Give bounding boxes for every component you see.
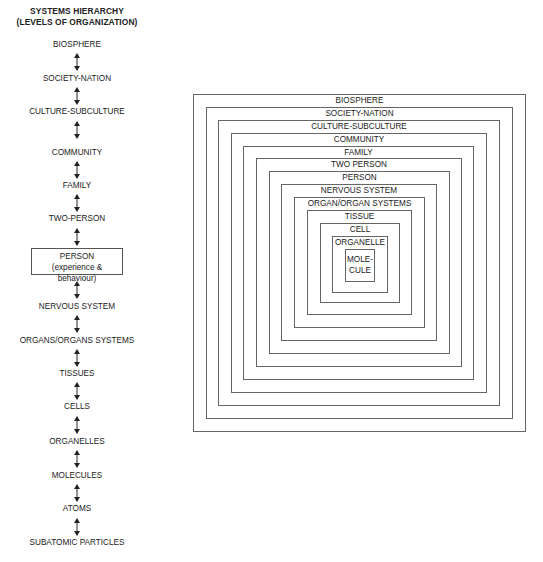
nest-label-molecule-2: CULE <box>346 265 374 276</box>
double-arrow-icon <box>73 161 81 179</box>
double-arrow-icon <box>73 382 81 400</box>
double-arrow-icon <box>73 484 81 502</box>
double-arrow-icon <box>73 450 81 468</box>
nest-label-biosphere: BIOSPHERE <box>194 96 525 106</box>
level-organelles: ORGANELLES <box>0 437 154 446</box>
level-two-person: TWO-PERSON <box>0 214 154 223</box>
double-arrow-icon <box>73 349 81 367</box>
double-arrow-icon <box>73 228 81 246</box>
nest-molecule: MOLE- CULE <box>345 249 375 282</box>
level-nervous-system: NERVOUS SYSTEM <box>0 302 154 311</box>
level-organs-systems: ORGANS/ORGANS SYSTEMS <box>0 336 154 345</box>
level-atoms: ATOMS <box>0 504 154 513</box>
nest-label-organ-systems: ORGAN/ORGAN SYSTEMS <box>295 199 424 209</box>
level-society-nation: SOCIETY-NATION <box>0 74 154 83</box>
double-arrow-icon <box>73 194 81 212</box>
double-arrow-icon <box>73 121 81 139</box>
double-arrow-icon <box>73 315 81 333</box>
level-community: COMMUNITY <box>0 148 154 157</box>
nest-label-culture-subculture: CULTURE-SUBCULTURE <box>219 122 499 132</box>
nest-label-family: FAMILY <box>244 148 473 158</box>
level-tissues: TISSUES <box>0 369 154 378</box>
double-arrow-icon <box>73 518 81 536</box>
nest-label-organelle: ORGANELLE <box>333 238 387 248</box>
nest-label-molecule-1: MOLE- <box>346 254 374 265</box>
nest-label-two-person: TWO PERSON <box>257 160 461 170</box>
level-culture-subculture: CULTURE-SUBCULTURE <box>0 107 154 116</box>
hierarchy-title-line1: SYSTEMS HIERARCHY <box>0 6 154 16</box>
double-arrow-icon <box>73 416 81 434</box>
nest-label-community: COMMUNITY <box>232 135 486 145</box>
double-arrow-icon <box>73 87 81 105</box>
level-person: PERSON <box>32 251 122 262</box>
level-cells: CELLS <box>0 402 154 411</box>
nest-label-society-nation: SOCIETY-NATION <box>207 109 512 119</box>
nest-label-tissue: TISSUE <box>308 212 411 222</box>
nest-label-cell: CELL <box>321 225 399 235</box>
level-molecules: MOLECULES <box>0 471 154 480</box>
double-arrow-icon <box>73 53 81 71</box>
hierarchy-title-line2: (LEVELS OF ORGANIZATION) <box>0 17 154 27</box>
level-person-box: PERSON (experience & behaviour) <box>31 248 123 275</box>
nest-label-person: PERSON <box>270 173 449 183</box>
double-arrow-icon <box>73 281 81 299</box>
nest-label-nervous-system: NERVOUS SYSTEM <box>282 186 436 196</box>
level-subatomic-particles: SUBATOMIC PARTICLES <box>0 538 154 547</box>
level-biosphere: BIOSPHERE <box>0 40 154 49</box>
level-family: FAMILY <box>0 181 154 190</box>
